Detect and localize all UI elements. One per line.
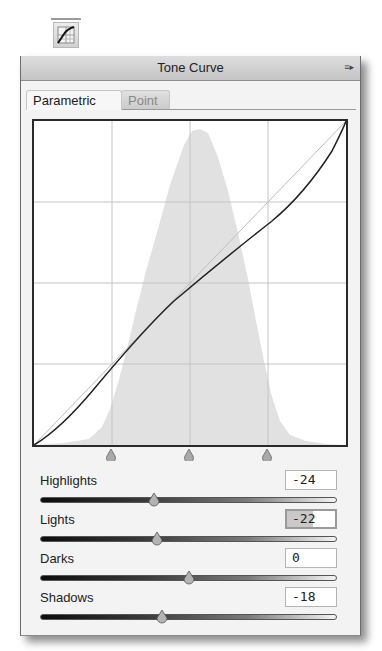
darks-value-field[interactable]: 0 [285,548,337,568]
shadows-slider-thumb[interactable] [155,610,169,624]
split-point-darks-lights[interactable] [183,449,195,461]
tone-curve-graph[interactable] [32,119,348,447]
panel-header[interactable]: Tone Curve ≡▸ [21,56,360,81]
darks-label: Darks [40,551,74,566]
highlights-value-field[interactable]: -24 [285,470,337,490]
toolbar-divider [51,18,81,20]
tab-parametric[interactable]: Parametric [26,90,122,110]
split-point-lights-highlights[interactable] [261,449,273,461]
panel-menu-icon[interactable]: ≡▸ [340,61,354,73]
highlights-label: Highlights [40,473,97,488]
tab-point[interactable]: Point [121,90,170,110]
shadows-slider-track[interactable] [40,614,337,620]
shadows-label: Shadows [40,590,93,605]
lights-label: Lights [40,512,75,527]
highlights-slider-track[interactable] [40,497,337,503]
curve-plot [34,121,346,445]
panel-title: Tone Curve [157,60,223,75]
tone-curve-panel: Tone Curve ≡▸ Parametric Point [20,56,361,636]
shadows-value-field[interactable]: -18 [285,587,337,607]
lights-value-field[interactable]: -22 [285,509,337,529]
tab-label: Parametric [33,93,96,108]
darks-slider-thumb[interactable] [182,571,196,585]
tone-curve-icon [54,23,78,47]
lights-slider-thumb[interactable] [150,532,164,546]
tab-label: Point [128,93,158,108]
lights-slider-track[interactable] [40,536,337,542]
tone-curve-tool-button[interactable] [53,22,79,48]
tab-divider [119,109,356,110]
highlights-slider-thumb[interactable] [147,493,161,507]
split-point-shadows-darks[interactable] [105,449,117,461]
